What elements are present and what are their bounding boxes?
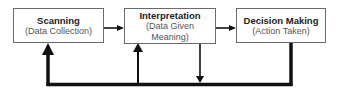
node-scanning-title: Scanning [37, 15, 80, 26]
arrow-interpretation-to-feedback [196, 43, 204, 83]
node-decision-subtitle: (Action Taken) [252, 26, 309, 37]
node-decision-title: Decision Making [244, 15, 319, 26]
node-scanning-subtitle: (Data Collection) [25, 26, 92, 37]
node-interpretation-subtitle-line1: (Data Given [146, 21, 194, 32]
node-interpretation-subtitle-line2: Meaning) [151, 32, 189, 43]
node-interpretation-title: Interpretation [139, 10, 200, 21]
arrow-interpretation-to-decision [215, 25, 236, 31]
node-decision-making: Decision Making (Action Taken) [236, 8, 326, 43]
arrow-scanning-to-interpretation [103, 25, 124, 31]
arrow-feedback-to-scanning [42, 43, 54, 86]
arrow-feedback-to-interpretation [133, 43, 143, 84]
node-scanning: Scanning (Data Collection) [13, 8, 104, 43]
node-interpretation: Interpretation (Data Given Meaning) [124, 8, 216, 44]
